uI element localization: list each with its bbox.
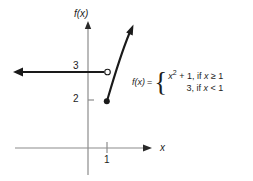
formula-cases: x2 + 1, if x ≥ 1 3, if x < 1 bbox=[168, 70, 223, 94]
formula-function-name: f(x) bbox=[132, 77, 145, 87]
x-axis-label: x bbox=[160, 143, 165, 153]
y-tick-label-2: 2 bbox=[73, 94, 79, 104]
open-circle-endpoint bbox=[105, 69, 111, 75]
case-1-rest: + 1, if bbox=[177, 71, 204, 81]
piecewise-formula: f(x) = { x2 + 1, if x ≥ 1 3, if x < 1 bbox=[132, 70, 223, 94]
case-2-value: 3, if bbox=[187, 83, 204, 93]
x-tick-label-1: 1 bbox=[104, 155, 110, 165]
formula-equals: = bbox=[147, 77, 152, 87]
y-tick-label-3: 3 bbox=[73, 61, 79, 71]
formula-case-2: 3, if x < 1 bbox=[168, 82, 223, 94]
y-axis-arrowhead bbox=[85, 21, 91, 29]
formula-case-1: x2 + 1, if x ≥ 1 bbox=[168, 70, 223, 82]
case-2-cond: < 1 bbox=[208, 83, 223, 93]
case-1-cond: ≥ 1 bbox=[208, 71, 223, 81]
constant-branch-arrowhead bbox=[13, 67, 23, 76]
y-axis-label: f(x) bbox=[74, 9, 88, 19]
filled-dot-endpoint bbox=[104, 98, 110, 104]
quadratic-branch-curve bbox=[107, 33, 130, 101]
x-axis-arrowhead bbox=[143, 145, 152, 152]
quadratic-branch-arrowhead bbox=[126, 25, 133, 36]
